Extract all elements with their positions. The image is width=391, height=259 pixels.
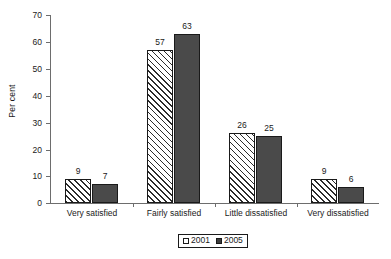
bar-2005[interactable]: 63 (174, 34, 200, 203)
legend-entry-2005[interactable]: 2005 (216, 236, 243, 245)
bar-group: 9 7 (51, 15, 133, 203)
x-axis-label: Very satisfied (51, 208, 133, 218)
bar-group: 26 25 (215, 15, 297, 203)
bar-2001[interactable]: 26 (229, 133, 255, 203)
x-tick-mark (133, 203, 134, 207)
x-tick-mark (215, 203, 216, 207)
bar-group: 9 6 (297, 15, 379, 203)
plot-area: 9 7 57 63 26 25 9 (51, 15, 379, 203)
bar-value-label: 9 (76, 167, 81, 176)
x-axis-label: Fairly satisfied (133, 208, 215, 218)
legend-entry-2001[interactable]: 2001 (183, 236, 210, 245)
y-tick-label: 20 (0, 146, 42, 155)
y-tick-label: 30 (0, 119, 42, 128)
bar-2005[interactable]: 7 (92, 184, 118, 203)
y-tick-label: 70 (0, 11, 42, 20)
bar-2005[interactable]: 25 (256, 136, 282, 203)
legend-label: 2005 (224, 236, 243, 245)
bar-value-label: 7 (103, 172, 108, 181)
bar-2001[interactable]: 9 (65, 179, 91, 203)
bar-value-label: 57 (155, 38, 164, 47)
y-tick-label: 50 (0, 65, 42, 74)
filled-square-icon (216, 238, 222, 244)
bar-2001[interactable]: 57 (147, 50, 173, 203)
y-axis-ticks: 70 60 50 40 30 20 10 0 (0, 0, 52, 259)
y-tick-label: 60 (0, 38, 42, 47)
legend-label: 2001 (191, 236, 210, 245)
bar-chart: Per cent 70 60 50 40 30 20 10 0 9 7 (0, 0, 391, 259)
chart-legend: 2001 2005 (178, 234, 248, 248)
bar-value-label: 25 (264, 124, 273, 133)
bar-value-label: 9 (322, 167, 327, 176)
bar-2005[interactable]: 6 (338, 187, 364, 203)
bar-value-label: 26 (237, 121, 246, 130)
x-axis-label: Little dissatisfied (215, 208, 297, 218)
bar-value-label: 6 (349, 175, 354, 184)
bar-group: 57 63 (133, 15, 215, 203)
y-tick-label: 0 (0, 199, 42, 208)
y-tick-label: 40 (0, 92, 42, 101)
x-axis-label: Very dissatisfied (297, 208, 379, 218)
x-tick-mark (297, 203, 298, 207)
bar-2001[interactable]: 9 (311, 179, 337, 203)
hatched-square-icon (183, 238, 189, 244)
y-tick-label: 10 (0, 172, 42, 181)
bar-value-label: 63 (182, 22, 191, 31)
